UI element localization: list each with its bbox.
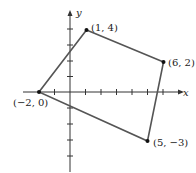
vertex-points	[37, 28, 166, 143]
coordinate-diagram: y x (1, 4) (6, 2) (5, −3) (−2, 0)	[0, 0, 196, 173]
vertex-neg2-0	[37, 90, 41, 94]
quadrilateral	[39, 30, 164, 141]
y-axis-arrow-icon	[68, 10, 73, 16]
y-axis-label: y	[76, 8, 82, 18]
x-axis-label: x	[183, 88, 189, 98]
vertex-label-6-2: (6, 2)	[168, 58, 195, 68]
vertex-label-1-4: (1, 4)	[91, 23, 118, 33]
vertex-6-2	[162, 60, 166, 64]
vertex-label-5-neg3: (5, −3)	[153, 138, 188, 148]
vertex-label-neg2-0: (−2, 0)	[13, 98, 48, 108]
vertex-1-4	[85, 28, 89, 32]
vertex-5-neg3	[146, 139, 150, 143]
